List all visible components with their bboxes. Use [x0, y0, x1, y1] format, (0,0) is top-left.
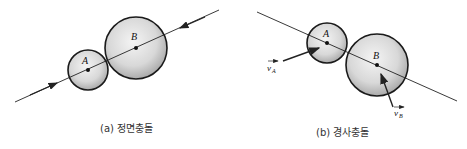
label-b: B — [373, 50, 379, 61]
caption-oblique-impact: (b) 경사충돌 — [316, 124, 369, 139]
svg-text:A: A — [271, 68, 276, 74]
center-dot-a — [86, 68, 90, 72]
caption-central-impact: (a) 정면충돌 — [100, 120, 153, 135]
arrow-b-icon — [180, 17, 205, 28]
panel-oblique-impact: A B v A v B — [257, 12, 457, 119]
svg-text:v: v — [394, 108, 398, 118]
label-vb: v B — [394, 107, 404, 119]
svg-text:B: B — [399, 113, 403, 119]
label-b: B — [131, 31, 137, 42]
center-dot-b — [134, 46, 138, 50]
svg-text:v: v — [267, 63, 271, 73]
arrow-a-icon — [30, 83, 57, 95]
center-dot-b — [375, 63, 379, 67]
label-a: A — [322, 28, 330, 39]
collision-diagram: A B A B v A v B — [0, 0, 467, 149]
label-va: v A — [267, 61, 278, 74]
center-dot-a — [325, 41, 329, 45]
label-a: A — [81, 55, 89, 66]
panel-central-impact: A B — [15, 10, 219, 102]
